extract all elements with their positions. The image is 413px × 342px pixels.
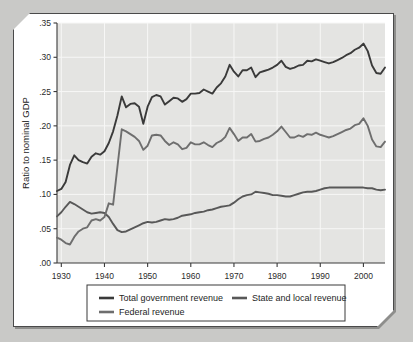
y-tick-label: .25 [39, 87, 51, 97]
x-tick-label: 1990 [311, 271, 330, 281]
legend-label: Federal revenue [119, 307, 185, 317]
revenue-gdp-line-chart: .00.05.10.15.20.25.30.351930194019501960… [13, 13, 394, 327]
y-tick-label: .35 [39, 18, 51, 28]
x-tick-label: 1930 [52, 271, 71, 281]
legend: Total government revenueState and local … [87, 285, 347, 321]
x-tick-label: 2000 [354, 271, 373, 281]
y-tick-label: .05 [39, 224, 51, 234]
legend-label: State and local revenue [252, 293, 347, 303]
y-axis-ticks: .00.05.10.15.20.25.30.35 [39, 18, 57, 268]
x-axis-ticks: 19301940195019601970198019902000 [52, 263, 373, 281]
x-tick-label: 1970 [224, 271, 243, 281]
x-tick-label: 1950 [138, 271, 157, 281]
chart-canvas: .00.05.10.15.20.25.30.351930194019501960… [13, 13, 394, 327]
x-tick-label: 1960 [181, 271, 200, 281]
y-axis-label: Ratio to nominal GDP [20, 97, 31, 189]
x-tick-label: 1940 [95, 271, 114, 281]
x-tick-label: 1980 [268, 271, 287, 281]
y-tick-label: .00 [39, 258, 51, 268]
plot-background [57, 23, 385, 263]
y-tick-label: .10 [39, 189, 51, 199]
y-tick-label: .20 [39, 121, 51, 131]
y-tick-label: .15 [39, 155, 51, 165]
legend-label: Total government revenue [119, 293, 223, 303]
y-tick-label: .30 [39, 52, 51, 62]
